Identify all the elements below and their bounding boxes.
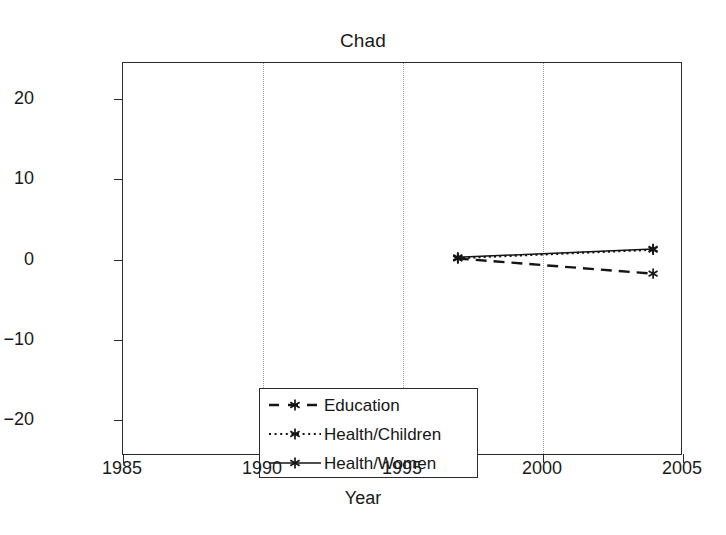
- legend-item[interactable]: Education: [260, 390, 477, 420]
- series-line: [458, 250, 653, 258]
- x-tick-label: 2000: [522, 458, 562, 479]
- x-axis-title: Year: [0, 488, 726, 509]
- y-tick-label: −20: [0, 408, 34, 429]
- y-tick-label: 0: [0, 248, 34, 269]
- x-tick-label: 1985: [102, 458, 142, 479]
- chart-figure: Chad % change in poverty headcount Year …: [0, 0, 726, 535]
- legend-item[interactable]: Health/Children: [260, 419, 477, 449]
- x-tick-label: 1990: [242, 458, 282, 479]
- y-tick-label: 10: [0, 168, 34, 189]
- plot-area: EducationHealth/ChildrenHealth/Women: [122, 62, 682, 455]
- y-tick: [114, 260, 123, 261]
- y-tick: [114, 420, 123, 421]
- x-tick-label: 1995: [382, 458, 422, 479]
- y-tick-label: 20: [0, 88, 34, 109]
- legend-item[interactable]: Health/Women: [260, 448, 477, 478]
- y-tick: [114, 179, 123, 180]
- legend-item-label: Education: [324, 397, 400, 414]
- chart-title: Chad: [0, 30, 726, 52]
- legend-item-label: Health/Children: [324, 426, 441, 443]
- data-point-marker: [649, 268, 658, 278]
- legend: EducationHealth/ChildrenHealth/Women: [259, 388, 478, 478]
- legend-line-sample: [266, 394, 324, 416]
- legend-line-sample: [266, 423, 324, 445]
- x-tick-label: 2005: [662, 458, 702, 479]
- y-tick: [114, 340, 123, 341]
- series-line: [458, 249, 653, 257]
- y-tick-label: −10: [0, 328, 34, 349]
- series-line: [458, 259, 653, 274]
- y-tick: [114, 99, 123, 100]
